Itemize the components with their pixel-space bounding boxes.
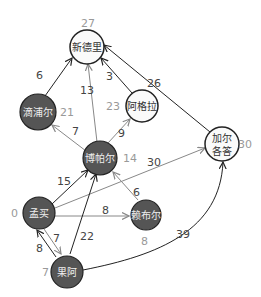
node-label: 博帕尔 [85,152,115,164]
weight-goa-mumbai: 8 [36,242,43,255]
node-label: 滴浦尔 [23,106,53,118]
graph-diagram: 6 13 3 26 7 9 15 30 6 8 7 8 22 39 新德里 27… [0,0,261,297]
weight-goa-kolkata: 39 [176,228,190,241]
node-delhi[interactable]: 新德里 27 [70,17,104,64]
distance-label: 14 [123,152,137,165]
distance-label: 8 [141,235,148,248]
node-agra[interactable]: 阿格拉 23 [106,90,158,122]
node-label-line1: 加尔 [212,132,232,144]
edge-jaipur-delhi [45,58,72,96]
distance-label: 0 [11,207,18,220]
distance-label: 7 [42,266,49,279]
node-raipur[interactable]: 赖布尔 8 [131,200,161,248]
distance-label: 21 [60,106,74,119]
weight-goa-bhopal: 22 [80,230,94,243]
weight-bhopal-delhi: 13 [80,84,94,97]
node-label: 孟买 [29,208,49,219]
distance-label: 23 [106,100,120,113]
weight-mumbai-goa: 7 [53,232,60,245]
node-label-line2: 各答 [212,145,232,157]
distance-label: 30 [238,138,252,151]
node-kolkata[interactable]: 加尔 各答 30 [205,127,252,161]
weight-jaipur-delhi: 6 [36,69,43,82]
weight-bhopal-jaipur: 7 [72,125,79,138]
weight-raipur-bhopal: 6 [133,186,140,199]
node-bhopal[interactable]: 博帕尔 14 [83,141,137,175]
weight-bhopal-agra: 9 [118,127,125,140]
weight-kolkata-delhi: 26 [147,77,161,90]
weight-mumbai-bhopal: 15 [57,175,71,188]
node-mumbai[interactable]: 孟买 0 [11,197,55,229]
node-jaipur[interactable]: 滴浦尔 21 [20,94,74,130]
node-label: 新德里 [72,41,102,53]
weight-mumbai-raipur: 8 [102,204,109,217]
weight-mumbai-kolkata: 30 [147,156,161,169]
weight-agra-delhi: 3 [106,70,113,83]
distance-label: 27 [81,17,95,30]
node-label: 果阿 [57,267,77,278]
edge-bhopal-jaipur [52,125,86,151]
node-goa[interactable]: 果阿 7 [42,256,83,288]
node-label: 阿格拉 [127,100,157,112]
node-label: 赖布尔 [131,209,161,221]
edge-bhopal-delhi [88,64,97,142]
